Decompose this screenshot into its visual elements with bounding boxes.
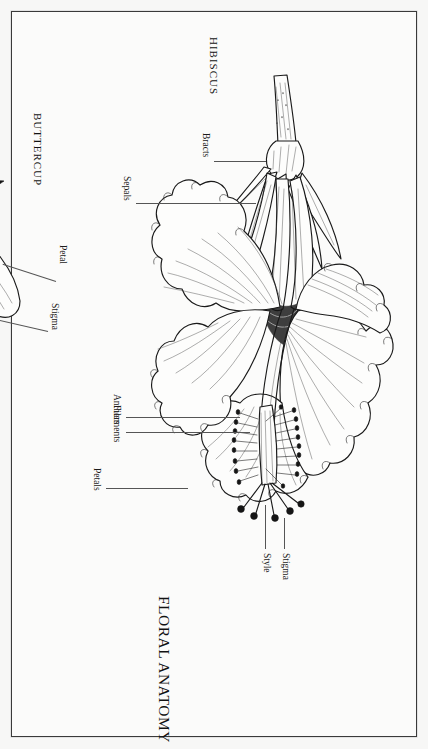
hibiscus-illustration bbox=[125, 73, 410, 593]
label-filaments: Filaments bbox=[112, 405, 122, 442]
leader-petals bbox=[106, 488, 188, 489]
leader-stigma bbox=[284, 518, 285, 549]
label-petals: Petals bbox=[92, 468, 102, 491]
label-bracts: Bracts bbox=[201, 133, 211, 157]
label-sepals: Sepals bbox=[122, 176, 132, 201]
leader-filaments bbox=[126, 432, 250, 433]
label-petal: Petal bbox=[58, 245, 68, 264]
label-stigma-buttercup: Stigma bbox=[50, 303, 60, 330]
label-style: Style bbox=[262, 553, 272, 573]
plate-title: FLORAL ANATOMY bbox=[155, 596, 173, 743]
plate-content: FLORAL ANATOMY bbox=[12, 13, 416, 737]
leader-bracts bbox=[214, 161, 266, 162]
buttercup-caption: BUTTERCUP bbox=[32, 113, 44, 186]
leader-style bbox=[265, 505, 266, 549]
leader-anthers bbox=[126, 417, 240, 418]
hibiscus-caption: HIBISCUS bbox=[208, 37, 220, 95]
label-stigma-hibiscus: Stigma bbox=[281, 553, 291, 580]
leader-sepals bbox=[136, 203, 256, 204]
diagram-page: FLORAL ANATOMY bbox=[0, 0, 428, 749]
